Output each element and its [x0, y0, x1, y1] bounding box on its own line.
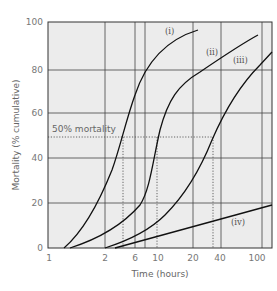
mortality-chart: (i) (ii) (iii) (iv) 50% mortality 0 20 4…: [0, 0, 277, 291]
curve-label-iii: (iii): [233, 55, 248, 65]
svg-text:80: 80: [32, 65, 44, 75]
fifty-percent-annotation: 50% mortality: [52, 124, 116, 134]
svg-text:100: 100: [248, 253, 265, 263]
svg-text:6: 6: [132, 253, 138, 263]
curve-label-i: (i): [165, 26, 174, 36]
curve-label-ii: (ii): [206, 47, 218, 57]
svg-text:100: 100: [26, 17, 43, 27]
svg-text:0: 0: [37, 243, 43, 253]
svg-text:2: 2: [102, 253, 108, 263]
svg-text:20: 20: [187, 253, 199, 263]
y-axis-ticks: 0 20 40 60 80 100: [26, 17, 43, 253]
svg-text:40: 40: [214, 253, 226, 263]
svg-text:20: 20: [32, 198, 44, 208]
svg-text:60: 60: [32, 108, 44, 118]
y-axis-label: Mortality (% cumulative): [11, 79, 21, 190]
curve-label-iv: (iv): [231, 217, 245, 227]
svg-text:40: 40: [32, 153, 44, 163]
svg-text:1: 1: [46, 253, 52, 263]
svg-text:10: 10: [152, 253, 164, 263]
x-axis-ticks: 1 2 6 10 20 40 100: [46, 253, 266, 263]
x-axis-label: Time (hours): [130, 269, 188, 279]
